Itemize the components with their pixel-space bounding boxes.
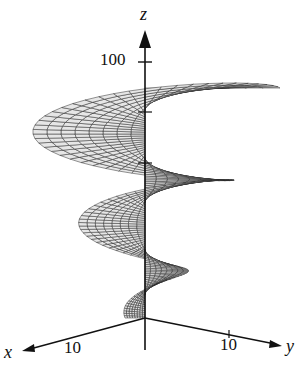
y-axis <box>145 318 282 348</box>
x-axis-arrowhead-icon <box>22 344 35 352</box>
y-axis-label: y <box>286 336 294 357</box>
z-axis-label: z <box>140 4 147 25</box>
z-axis-arrowhead-icon <box>139 30 151 48</box>
helicoid-surface <box>33 83 280 318</box>
x-axis <box>22 318 145 352</box>
z-tick-label: 100 <box>100 50 126 70</box>
y-axis-arrowhead-icon <box>269 340 282 348</box>
surface-plot <box>0 0 303 372</box>
x-axis-label: x <box>4 342 12 363</box>
x-tick-label: 10 <box>64 338 81 358</box>
y-tick-label: 10 <box>220 335 237 355</box>
